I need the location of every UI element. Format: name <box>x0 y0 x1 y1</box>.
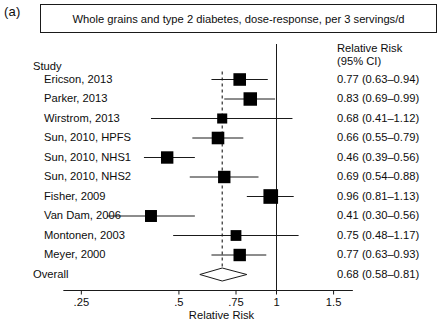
x-axis-tick-label: .5 <box>174 296 183 308</box>
study-rr-value: 0.77 (0.63–0.94) <box>337 73 419 85</box>
study-rr-value: 0.83 (0.69–0.99) <box>337 92 419 104</box>
forest-row <box>211 73 267 86</box>
forest-row <box>247 189 294 204</box>
study-rr-value: 0.77 (0.63–0.93) <box>337 248 419 260</box>
forest-plot-figure: (a) Whole grains and type 2 diabetes, do… <box>0 0 443 330</box>
overall-diamond <box>200 268 247 281</box>
effect-marker <box>263 189 278 204</box>
effect-marker <box>212 132 225 145</box>
study-rr-value: 0.66 (0.55–0.79) <box>337 131 419 143</box>
study-label: Montonen, 2003 <box>44 229 125 241</box>
overall-rr-value: 0.68 (0.58–0.81) <box>337 268 419 280</box>
x-axis-tick-label: 1.5 <box>326 296 342 308</box>
study-label: Ericson, 2013 <box>44 73 112 85</box>
overall-label: Overall <box>33 268 68 280</box>
forest-row <box>173 230 298 241</box>
study-label: Wirstrom, 2013 <box>44 112 120 124</box>
study-label: Sun, 2010, NHS1 <box>44 151 131 163</box>
study-label: Sun, 2010, NHS2 <box>44 170 131 182</box>
forest-row <box>224 92 275 105</box>
study-rr-value: 0.46 (0.39–0.56) <box>337 151 419 163</box>
study-rr-value: 0.96 (0.81–1.13) <box>337 190 419 202</box>
forest-row <box>192 132 243 145</box>
effect-marker <box>217 113 227 123</box>
forest-row <box>190 171 259 183</box>
effect-marker <box>234 249 246 261</box>
x-axis-tick-label: 1 <box>273 296 279 308</box>
study-rr-value: 0.75 (0.48–1.17) <box>337 229 419 241</box>
study-label: Parker, 2013 <box>44 92 107 104</box>
x-axis-tick-label: .75 <box>228 296 244 308</box>
study-label: Fisher, 2009 <box>44 190 106 202</box>
effect-marker <box>231 230 242 241</box>
study-label: Sun, 2010, HPFS <box>44 131 131 143</box>
effect-marker <box>244 92 257 105</box>
effect-marker <box>218 171 230 183</box>
forest-plot-canvas: .25.5.7511.5 <box>0 0 443 330</box>
x-axis-tick-label: .25 <box>74 296 90 308</box>
study-label: Van Dam, 2006 <box>44 209 121 221</box>
study-rr-value: 0.41 (0.30–0.56) <box>337 209 419 221</box>
x-axis-title: Relative Risk <box>0 309 443 321</box>
study-rr-value: 0.69 (0.54–0.88) <box>337 170 419 182</box>
forest-row <box>151 113 292 123</box>
study-rr-value: 0.68 (0.41–1.12) <box>337 112 419 124</box>
effect-marker <box>145 210 157 222</box>
forest-row <box>211 249 266 261</box>
effect-marker <box>233 73 246 86</box>
forest-row <box>144 151 195 163</box>
study-label: Meyer, 2000 <box>44 248 106 260</box>
effect-marker <box>161 151 173 163</box>
